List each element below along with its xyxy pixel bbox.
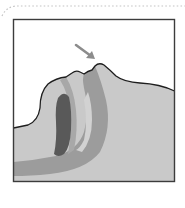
airway-diagram bbox=[0, 0, 185, 208]
illustration-card: Side cross-section of a sleeping person'… bbox=[0, 0, 185, 208]
card-dotted-border bbox=[2, 6, 185, 16]
